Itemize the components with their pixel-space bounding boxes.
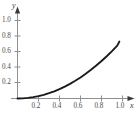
y-tick-label-1-0: 1.0 xyxy=(2,16,11,24)
y-axis-label: y xyxy=(12,1,16,10)
data-curve xyxy=(18,42,120,99)
x-tick-label-0-2: 0.2 xyxy=(32,102,41,110)
y-tick-label-0-6: 0.6 xyxy=(2,47,11,55)
x-tick-label-1-0: 1.0 xyxy=(116,102,125,110)
y-tick-label-0-8: 0.8 xyxy=(2,32,11,40)
chart-plot-area xyxy=(0,0,139,116)
y-tick-label-0-4: 0.4 xyxy=(2,63,11,71)
x-tick-label-0-8: 0.8 xyxy=(95,102,104,110)
x-axis-label: x xyxy=(130,101,134,110)
chart-figure: 1.0 0.8 0.6 0.4 0.2 0.2 0.4 0.6 0.8 1.0 … xyxy=(0,0,139,116)
x-tick-label-0-6: 0.6 xyxy=(74,102,83,110)
x-tick-label-0-4: 0.4 xyxy=(53,102,62,110)
y-tick-label-0-2: 0.2 xyxy=(2,78,11,86)
